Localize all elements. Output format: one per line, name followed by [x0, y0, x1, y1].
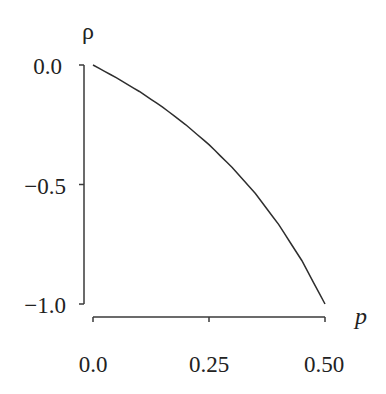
y-axis-title: ρ	[82, 18, 94, 44]
y-tick-label-1: −0.5	[24, 174, 66, 199]
chart: 0.0 −0.5 −1.0 ρ 0.0 0.25 0.50 p	[0, 0, 386, 394]
x-tick-label-0: 0.0	[79, 352, 108, 377]
data-curve	[93, 65, 325, 304]
x-tick-label-2: 0.50	[304, 352, 344, 377]
y-axis: 0.0 −0.5 −1.0 ρ	[24, 18, 94, 318]
x-axis: 0.0 0.25 0.50 p	[79, 303, 367, 377]
y-tick-label-2: −1.0	[24, 293, 66, 318]
y-tick-label-0: 0.0	[33, 54, 62, 79]
x-axis-title: p	[353, 303, 367, 329]
x-tick-label-1: 0.25	[189, 352, 229, 377]
